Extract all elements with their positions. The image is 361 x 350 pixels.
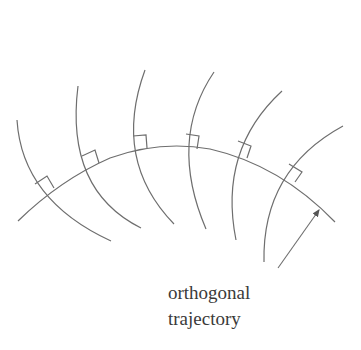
right-angle-marker-6 <box>289 164 302 182</box>
right-angle-marker-2 <box>82 150 99 163</box>
label-arrow <box>278 210 319 268</box>
family-curve-1 <box>17 120 111 241</box>
family-curve-2 <box>76 86 141 228</box>
orthogonal-trajectory-curve <box>18 146 335 222</box>
right-angle-marker-1 <box>35 176 54 188</box>
diagram-canvas: orthogonal trajectory <box>0 0 361 350</box>
label-orthogonal: orthogonal <box>168 283 250 302</box>
right-angle-marker-5 <box>238 141 251 158</box>
label-trajectory: trajectory <box>168 309 241 328</box>
family-curve-4 <box>189 72 214 229</box>
